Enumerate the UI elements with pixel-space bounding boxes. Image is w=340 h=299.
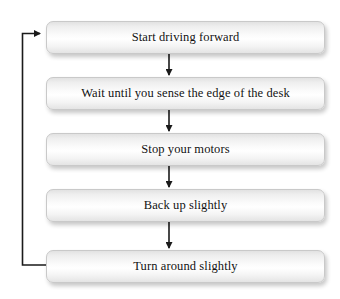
flow-node-step-5[interactable]: Turn around slightly bbox=[46, 250, 325, 283]
flow-node-step-3[interactable]: Stop your motors bbox=[46, 133, 325, 166]
flow-node-step-2[interactable]: Wait until you sense the edge of the des… bbox=[46, 77, 325, 110]
flow-node-step-4[interactable]: Back up slightly bbox=[46, 189, 325, 222]
flowchart-diagram: Start driving forward Wait until you sen… bbox=[0, 0, 340, 299]
flow-node-label: Back up slightly bbox=[144, 199, 228, 212]
flow-node-label: Stop your motors bbox=[141, 143, 229, 156]
flow-node-step-1[interactable]: Start driving forward bbox=[46, 21, 325, 54]
flow-node-label: Turn around slightly bbox=[133, 260, 237, 273]
flow-node-label: Wait until you sense the edge of the des… bbox=[81, 87, 290, 100]
flow-node-label: Start driving forward bbox=[132, 31, 240, 44]
